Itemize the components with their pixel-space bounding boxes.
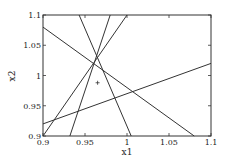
y-axis-label: x2 bbox=[7, 71, 17, 82]
series-line-1 bbox=[43, 27, 194, 136]
y-tick-label: 0.9 bbox=[28, 132, 41, 141]
markers bbox=[96, 81, 100, 85]
x-tick-label: 1.1 bbox=[205, 138, 218, 147]
plus-marker bbox=[96, 81, 100, 85]
y-axis-ticks: 0.90.9511.051.1 bbox=[23, 11, 211, 141]
y-tick-label: 0.95 bbox=[23, 102, 41, 111]
x-tick-label: 0.95 bbox=[76, 138, 94, 147]
plot-lines bbox=[43, 15, 211, 136]
series-line-2 bbox=[43, 63, 211, 124]
y-tick-label: 1.1 bbox=[28, 11, 41, 20]
x-tick-label: 1 bbox=[124, 138, 129, 147]
x-tick-label: 1.05 bbox=[160, 138, 178, 147]
x-axis-label: x1 bbox=[122, 147, 133, 157]
y-tick-label: 1 bbox=[36, 72, 41, 81]
series-line-4 bbox=[70, 15, 110, 136]
series-line-3 bbox=[43, 15, 127, 136]
axes-box bbox=[43, 15, 211, 136]
y-tick-label: 1.05 bbox=[23, 41, 41, 50]
chart: 0.90.9511.051.1 0.90.9511.051.1 x1 x2 bbox=[0, 0, 228, 164]
series-line-5 bbox=[79, 15, 131, 136]
